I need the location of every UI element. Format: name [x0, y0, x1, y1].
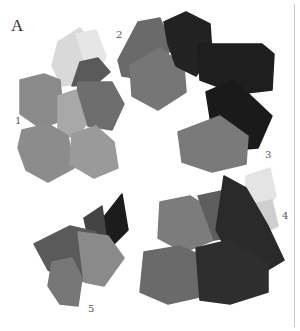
swatch-group-4: [140, 168, 284, 304]
group-label-1: 1: [15, 116, 21, 126]
right-border-rule: [294, 4, 295, 327]
swatch-group-3: [178, 80, 272, 172]
group-label-2: 2: [116, 30, 122, 40]
paint-swatch: [140, 246, 204, 304]
swatch-group-1: [18, 28, 124, 182]
group-label-5: 5: [88, 304, 94, 314]
paint-swatch-figure: A 1 2 3 4 5: [0, 0, 300, 331]
group-label-3: 3: [265, 150, 271, 160]
group-label-4: 4: [282, 211, 288, 221]
panel-letter: A: [11, 17, 23, 34]
swatch-groups: [0, 0, 300, 331]
paint-swatch: [70, 126, 118, 178]
swatch-group-5: [34, 194, 128, 306]
